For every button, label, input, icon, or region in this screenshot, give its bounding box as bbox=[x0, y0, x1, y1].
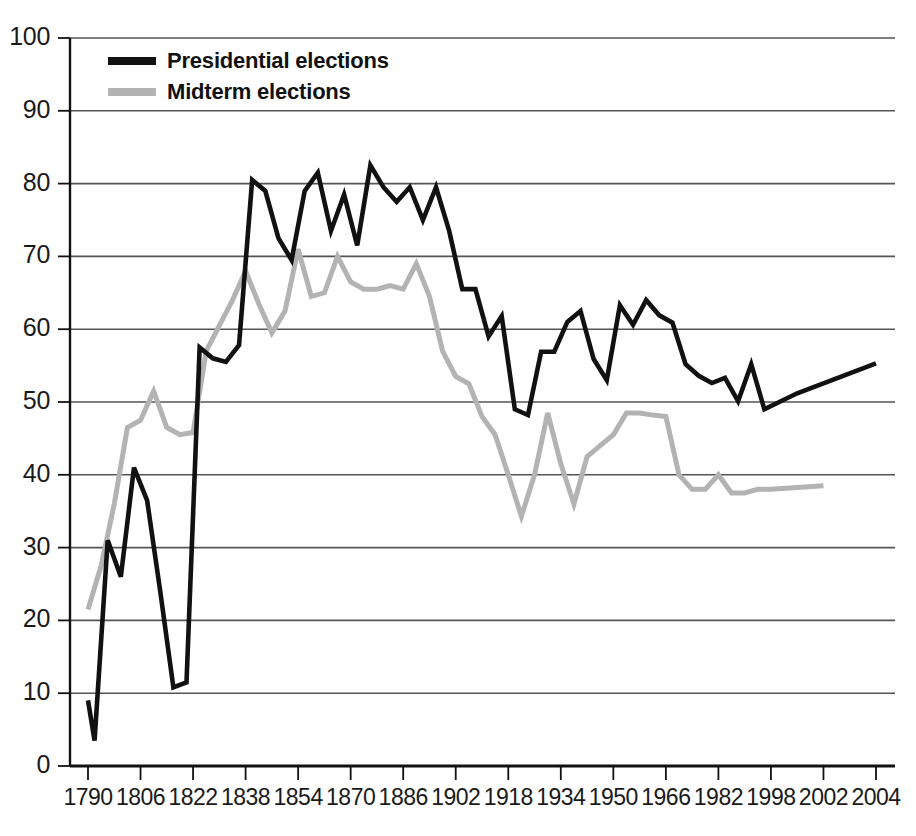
data-series-layer bbox=[88, 165, 876, 740]
legend-swatch-icon bbox=[108, 57, 156, 65]
x-axis-tick-label: 2004 bbox=[841, 784, 911, 811]
y-axis-tick-label: 50 bbox=[0, 386, 50, 415]
y-axis-tick-label: 100 bbox=[0, 22, 50, 51]
y-axis-tick-label: 90 bbox=[0, 95, 50, 124]
legend-item-label: Presidential elections bbox=[167, 48, 389, 74]
chart-plot-area bbox=[0, 0, 916, 836]
x-axis-ticks bbox=[88, 766, 876, 780]
gridlines bbox=[70, 38, 895, 693]
y-axis-tick-label: 0 bbox=[0, 750, 50, 779]
turnout-line-chart: 0102030405060708090100 17901806182218381… bbox=[0, 0, 916, 836]
y-axis-tick-label: 80 bbox=[0, 168, 50, 197]
legend-swatch-icon bbox=[108, 88, 156, 96]
y-axis-tick-label: 40 bbox=[0, 459, 50, 488]
y-axis-tick-label: 60 bbox=[0, 313, 50, 342]
chart-legend: Presidential electionsMidterm elections bbox=[108, 45, 389, 107]
legend-item: Midterm elections bbox=[108, 76, 389, 107]
y-axis-tick-label: 30 bbox=[0, 532, 50, 561]
y-axis-tick-label: 20 bbox=[0, 604, 50, 633]
y-axis-tick-label: 10 bbox=[0, 677, 50, 706]
y-axis-tick-label: 70 bbox=[0, 240, 50, 269]
legend-item: Presidential elections bbox=[108, 45, 389, 76]
series-line-presidential bbox=[88, 165, 876, 740]
y-axis-ticks bbox=[58, 38, 70, 766]
legend-item-label: Midterm elections bbox=[167, 79, 351, 105]
